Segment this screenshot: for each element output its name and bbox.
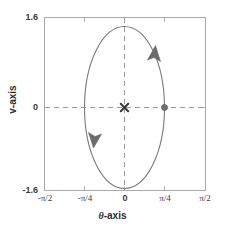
x-tick-label-3: π/4	[145, 193, 185, 203]
y-axis-title: v-axis	[7, 76, 18, 124]
x-axis-title: θ-axis	[0, 210, 225, 221]
x-tick-label-0: -π/2	[25, 193, 65, 203]
x-tick-label-4: π/2	[185, 193, 225, 203]
x-axis-title-suffix: -axis	[104, 210, 127, 221]
center-point-marker-icon	[162, 105, 168, 111]
arrow-upper-right-icon	[148, 46, 161, 62]
y-tick-label-top: 1.6	[6, 12, 38, 22]
x-tick-label-2: 0	[105, 193, 145, 203]
phase-portrait-figure: 1.6 0 -1.6 -π/2 -π/4 0 π/4 π/2 v-axis θ-…	[0, 0, 225, 228]
x-tick-label-1: -π/4	[65, 193, 105, 203]
arrow-lower-left-icon	[89, 133, 102, 149]
